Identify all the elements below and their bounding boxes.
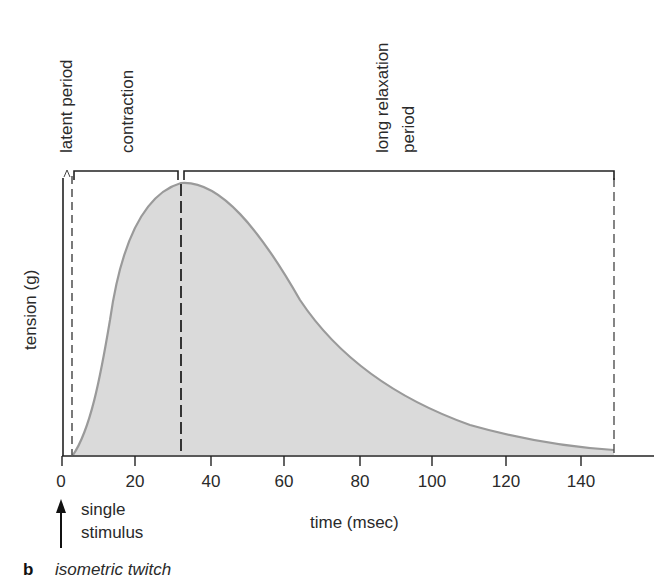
x-tick-label-100: 100 <box>418 472 446 491</box>
x-tick-label-80: 80 <box>351 472 370 491</box>
x-tick-labels: 0 20 40 60 80 100 120 140 <box>56 472 595 491</box>
latent-period-label: latent period <box>57 59 76 153</box>
stimulus-label-line2: stimulus <box>81 523 143 542</box>
twitch-diagram: latent period contraction long relaxatio… <box>0 0 671 583</box>
relaxation-label-line1: long relaxation <box>373 42 392 153</box>
stimulus-label-line1: single <box>81 500 125 519</box>
x-tick-label-60: 60 <box>275 472 294 491</box>
x-tick-label-20: 20 <box>126 472 145 491</box>
contraction-bracket <box>74 171 178 180</box>
figure-caption: isometric twitch <box>55 560 171 579</box>
relaxation-bracket <box>184 171 614 180</box>
x-tick-label-140: 140 <box>567 472 595 491</box>
contraction-label: contraction <box>118 70 137 153</box>
latent-caret-icon <box>64 170 70 177</box>
y-axis-label: tension (g) <box>21 270 40 350</box>
panel-letter: b <box>23 560 33 579</box>
x-tick-label-0: 0 <box>56 472 65 491</box>
x-tick-label-40: 40 <box>202 472 221 491</box>
x-tick-label-120: 120 <box>492 472 520 491</box>
tension-curve-area <box>73 183 614 455</box>
x-axis-label: time (msec) <box>310 513 399 532</box>
stimulus-arrow-icon <box>56 499 66 548</box>
relaxation-label-line2: period <box>399 106 418 153</box>
x-ticks <box>62 456 581 466</box>
